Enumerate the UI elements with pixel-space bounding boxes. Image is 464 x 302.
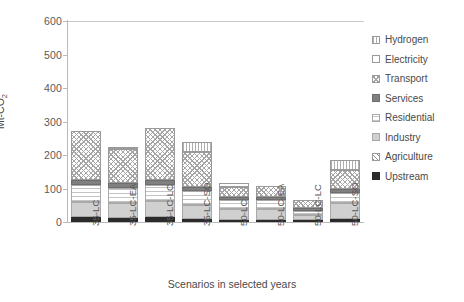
y-tick-mark <box>63 222 67 223</box>
y-tick-mark <box>63 88 67 89</box>
bar-segment-transport <box>145 128 175 180</box>
legend-item: Electricity <box>372 50 464 70</box>
y-tick-label: 600 <box>0 15 62 27</box>
y-tick-mark <box>63 122 67 123</box>
y-tick-mark <box>63 21 67 22</box>
bar-segment-transport <box>219 187 249 197</box>
bar-segment-hydrogen <box>182 142 212 152</box>
x-tick-label: 35-LC-LC <box>164 184 175 226</box>
white-empty-swatch <box>372 55 380 63</box>
legend-item: Services <box>372 89 464 109</box>
x-tick-label: 50-LC-SO <box>349 182 360 226</box>
y-tick-mark <box>63 189 67 190</box>
light-gray-swatch <box>372 133 380 141</box>
bar-segment-transport <box>108 149 138 184</box>
legend-label: Hydrogen <box>385 34 428 45</box>
y-tick-mark <box>63 55 67 56</box>
solid-black-swatch <box>372 172 380 180</box>
y-tick-label: 400 <box>0 82 62 94</box>
legend-item: Upstream <box>372 167 464 187</box>
legend-item: Agriculture <box>372 147 464 167</box>
legend-item: Transport <box>372 69 464 89</box>
bar-segment-hydrogen <box>330 160 360 169</box>
legend-item: Industry <box>372 128 464 148</box>
y-tick-mark <box>63 155 67 156</box>
vertical-lines-swatch <box>372 36 380 44</box>
y-tick-label: 0 <box>0 216 62 228</box>
legend-item: Hydrogen <box>372 30 464 50</box>
y-tick-label: 100 <box>0 183 62 195</box>
x-tick-label: 35-LC-EA <box>127 183 138 226</box>
legend-label: Residential <box>385 112 434 123</box>
legend-label: Upstream <box>385 171 428 182</box>
x-axis-label: Scenarios in selected years <box>0 278 464 290</box>
bar-segment-transport <box>71 131 101 180</box>
bar-segment-transport <box>182 152 212 187</box>
chart-legend: HydrogenElectricityTransportServicesResi… <box>372 30 464 186</box>
y-tick-label: 200 <box>0 149 62 161</box>
y-tick-label: 300 <box>0 116 62 128</box>
cross-hatch-swatch <box>372 75 380 83</box>
dark-gray-swatch <box>372 94 380 102</box>
y-axis-label: Mt-CO2 <box>0 94 9 129</box>
diagonal-hatch-swatch <box>372 153 380 161</box>
x-tick-label: 50-LC-LC <box>312 184 323 226</box>
legend-label: Electricity <box>385 54 428 65</box>
x-tick-label: 35-LC-SO <box>201 182 212 226</box>
legend-label: Services <box>385 93 423 104</box>
x-tick-label: 35-LC <box>90 200 101 226</box>
x-tick-label: 50-LC-EA <box>275 183 286 226</box>
co2-stacked-bar-chart: 0100200300400500600 Mt-CO2 35-LC35-LC-EA… <box>0 0 464 302</box>
y-tick-label: 500 <box>0 49 62 61</box>
legend-item: Residential <box>372 108 464 128</box>
legend-label: Industry <box>385 132 421 143</box>
legend-label: Transport <box>385 73 427 84</box>
legend-label: Agriculture <box>385 151 433 162</box>
horizontal-dots-swatch <box>372 114 380 122</box>
x-tick-label: 50-LC <box>238 200 249 226</box>
